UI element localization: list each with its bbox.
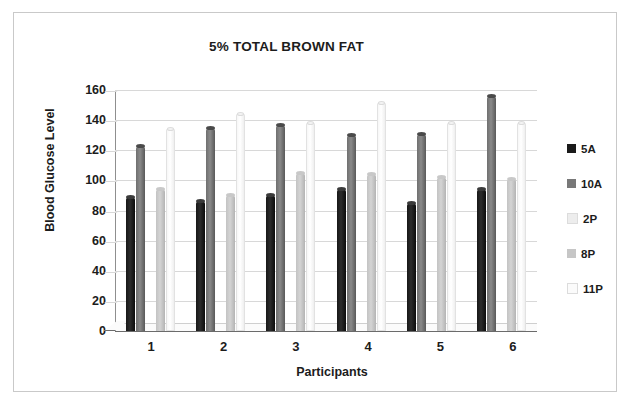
bar-11p-3[interactable] xyxy=(306,122,315,331)
legend-swatch-5a xyxy=(567,144,576,153)
legend-label: 11P xyxy=(583,283,603,295)
legend-swatch-10a xyxy=(567,179,576,188)
x-tick-label: 6 xyxy=(477,339,549,359)
bar-11p-4[interactable] xyxy=(377,102,386,331)
bar-cap xyxy=(487,94,496,98)
y-tick-label: 140 xyxy=(66,113,106,127)
bar-group xyxy=(256,90,326,331)
bar-11p-5[interactable] xyxy=(447,122,456,331)
bar-11p-6[interactable] xyxy=(517,122,526,331)
bar-8p-6[interactable] xyxy=(507,179,516,331)
bar-cap xyxy=(437,175,446,179)
y-tick-label: 20 xyxy=(66,294,106,308)
bar-cap xyxy=(518,121,525,125)
legend-label: 8P xyxy=(581,248,595,260)
bar-cap xyxy=(206,126,215,130)
bar-8p-1[interactable] xyxy=(156,189,165,331)
x-tick-label: 1 xyxy=(115,339,187,359)
bar-cap xyxy=(126,195,135,199)
bar-10a-5[interactable] xyxy=(417,134,426,331)
bar-8p-3[interactable] xyxy=(296,173,305,331)
bar-cap xyxy=(276,123,285,127)
bar-cap xyxy=(167,127,174,131)
bar-cap xyxy=(156,187,165,191)
bar-5a-5[interactable] xyxy=(407,203,416,331)
bar-group xyxy=(326,90,396,331)
bar-8p-2[interactable] xyxy=(226,195,235,331)
bar-5a-6[interactable] xyxy=(477,189,486,331)
bar-cap xyxy=(196,199,205,203)
x-tick-label: 2 xyxy=(187,339,259,359)
bar-cap xyxy=(378,101,385,105)
legend-item-8p[interactable]: 8P xyxy=(567,236,629,271)
bar-cap xyxy=(417,132,426,136)
y-tick-label: 40 xyxy=(66,264,106,278)
bar-cap xyxy=(347,133,356,137)
bar-10a-6[interactable] xyxy=(487,96,496,331)
y-tick-label: 160 xyxy=(66,83,106,97)
bar-cap xyxy=(477,187,486,191)
legend-item-2p[interactable]: 2P xyxy=(567,201,629,236)
bar-cap xyxy=(337,187,346,191)
chart-frame: 5% TOTAL BROWN FAT Blood Glucose Level 1… xyxy=(13,12,617,392)
bar-11p-2[interactable] xyxy=(236,113,245,331)
x-tick-label: 3 xyxy=(260,339,332,359)
bar-group xyxy=(396,90,466,331)
bar-cap xyxy=(407,201,416,205)
bar-group xyxy=(185,90,255,331)
bar-cap xyxy=(507,177,516,181)
legend-item-10a[interactable]: 10A xyxy=(567,166,629,201)
bar-5a-4[interactable] xyxy=(337,189,346,331)
legend-swatch-8p xyxy=(567,249,576,258)
legend-item-11p[interactable]: 11P xyxy=(567,271,629,306)
bar-10a-4[interactable] xyxy=(347,135,356,331)
bar-cap xyxy=(296,171,305,175)
bar-10a-1[interactable] xyxy=(136,146,145,331)
bar-11p-1[interactable] xyxy=(166,128,175,331)
legend-label: 10A xyxy=(581,178,602,190)
bar-5a-3[interactable] xyxy=(266,195,275,331)
bar-10a-2[interactable] xyxy=(206,128,215,331)
bar-cap xyxy=(448,121,455,125)
y-tick-label: 60 xyxy=(66,234,106,248)
x-tick-label: 4 xyxy=(332,339,404,359)
plot-area xyxy=(115,90,537,331)
y-tick-label: 120 xyxy=(66,143,106,157)
bar-8p-5[interactable] xyxy=(437,177,446,331)
bar-group xyxy=(467,90,537,331)
x-axis-tick-labels: 123456 xyxy=(115,339,549,359)
x-tick-label: 5 xyxy=(404,339,476,359)
chart-title: 5% TOTAL BROWN FAT xyxy=(14,39,559,54)
legend-label: 2P xyxy=(583,213,597,225)
bar-10a-3[interactable] xyxy=(276,125,285,331)
legend-item-5a[interactable]: 5A xyxy=(567,131,629,166)
legend-swatch-2p xyxy=(567,213,578,224)
bar-group xyxy=(115,90,185,331)
bar-5a-2[interactable] xyxy=(196,201,205,331)
y-tick-label: 80 xyxy=(66,204,106,218)
legend-swatch-11p xyxy=(567,283,578,294)
bar-cap xyxy=(266,193,275,197)
y-tick-label: 0 xyxy=(66,324,106,338)
chart-legend: 5A10A2P8P11P xyxy=(567,131,629,306)
bar-cap xyxy=(237,112,244,116)
bar-cap xyxy=(136,144,145,148)
y-tick-label: 100 xyxy=(66,173,106,187)
bar-cap xyxy=(367,172,376,176)
y-axis-title: Blood Glucose Level xyxy=(43,90,57,250)
legend-label: 5A xyxy=(581,143,596,155)
y-axis-tick-labels: 160140120100806040200 xyxy=(58,90,106,331)
x-axis-title: Participants xyxy=(115,365,549,379)
bar-groups xyxy=(115,90,537,331)
bar-5a-1[interactable] xyxy=(126,197,135,331)
bar-8p-4[interactable] xyxy=(367,174,376,331)
bar-cap xyxy=(307,121,314,125)
bar-cap xyxy=(226,193,235,197)
